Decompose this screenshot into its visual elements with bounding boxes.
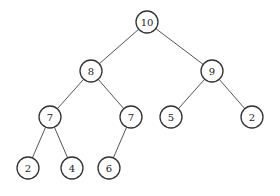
tree-node-n2b: 2 — [17, 157, 39, 179]
tree-node-n9: 9 — [201, 60, 223, 82]
node-label: 2 — [249, 112, 255, 123]
node-label: 9 — [209, 66, 215, 77]
tree-edge-n10-n8 — [99, 29, 138, 64]
tree-node-n6: 6 — [98, 157, 120, 179]
tree-node-n8: 8 — [80, 60, 102, 82]
node-label: 10 — [141, 17, 154, 28]
tree-node-n7b: 7 — [120, 106, 142, 128]
node-label: 2 — [25, 163, 31, 174]
tree-nodes: 10897752246 — [17, 11, 263, 179]
tree-node-n4: 4 — [61, 157, 83, 179]
tree-edge-n10-n9 — [156, 29, 203, 65]
tree-node-n10: 10 — [136, 11, 158, 33]
node-label: 7 — [128, 112, 134, 123]
tree-edge-n9-n5 — [178, 79, 204, 109]
tree-edge-n7a-n4 — [54, 127, 67, 158]
tree-edges — [32, 29, 244, 158]
tree-node-n2a: 2 — [241, 106, 263, 128]
node-label: 4 — [69, 163, 75, 174]
tree-edge-n8-n7b — [98, 79, 124, 108]
node-label: 7 — [47, 112, 53, 123]
binary-tree-diagram: 10897752246 — [0, 0, 280, 196]
tree-edge-n7b-n6 — [113, 127, 126, 158]
tree-edge-n9-n2a — [219, 79, 245, 108]
node-label: 5 — [168, 112, 174, 123]
tree-node-n7a: 7 — [39, 106, 61, 128]
tree-edge-n8-n7a — [57, 79, 83, 109]
node-label: 8 — [88, 66, 94, 77]
node-label: 6 — [106, 163, 112, 174]
tree-edge-n7a-n2b — [32, 127, 45, 158]
tree-node-n5: 5 — [160, 106, 182, 128]
